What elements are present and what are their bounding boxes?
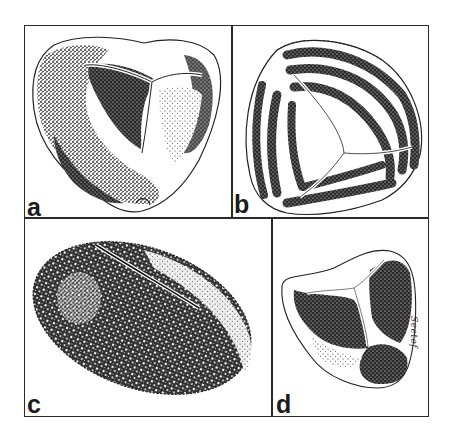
panel-b: b [232,25,428,217]
panel-c: c [24,218,271,417]
panel-label-b: b [234,192,249,217]
panel-d: Seetef d [272,218,428,417]
spore-c-drawing [24,218,271,417]
panel-label-d: d [276,392,291,417]
artist-signature: Seetef [409,316,419,348]
panel-label-c: c [27,392,41,417]
spore-d-drawing [272,218,428,417]
panel-a: a [24,25,231,217]
spore-b-drawing [232,25,428,217]
spore-a-drawing [24,25,231,217]
panel-label-a: a [27,195,41,217]
